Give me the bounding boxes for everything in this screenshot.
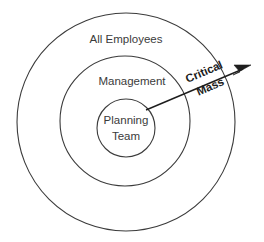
inner-ring-label-line2: Team bbox=[112, 130, 140, 142]
critical-mass-label-group: Critical Mass bbox=[184, 59, 231, 100]
inner-ring-planning-team bbox=[97, 99, 155, 157]
middle-ring-label: Management bbox=[98, 75, 166, 87]
concentric-circles-diagram: All Employees Management Planning Team C… bbox=[0, 0, 264, 242]
diagram-canvas: All Employees Management Planning Team C… bbox=[0, 0, 264, 242]
critical-mass-arrow-head-icon bbox=[233, 65, 251, 75]
outer-ring-label: All Employees bbox=[90, 33, 163, 45]
inner-ring-label-line1: Planning bbox=[104, 114, 149, 126]
